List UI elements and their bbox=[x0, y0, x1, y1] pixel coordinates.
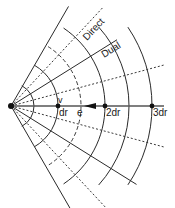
label-direct: Direct bbox=[80, 16, 106, 43]
ray-4 bbox=[11, 65, 166, 106]
label-dr: dr bbox=[59, 107, 69, 118]
ray-8 bbox=[11, 106, 96, 208]
ray-7 bbox=[11, 106, 113, 208]
arrow-left-icon bbox=[84, 103, 96, 109]
label-2dr: 2dr bbox=[106, 107, 121, 118]
label-3dr: 3dr bbox=[153, 107, 168, 118]
dual-direct-grid-diagram: Direct Dual v dr e 2dr 3dr bbox=[0, 0, 175, 208]
label-v: v bbox=[58, 95, 63, 105]
label-e: e bbox=[77, 107, 83, 118]
origin-point bbox=[8, 103, 14, 109]
ray-5 bbox=[11, 106, 166, 147]
label-dual: Dual bbox=[99, 39, 122, 59]
